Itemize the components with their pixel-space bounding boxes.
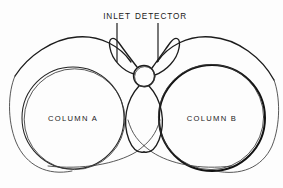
figure-root: INLET DETECTOR COLUMN A COLUMN B [0,0,283,188]
detector-label: DETECTOR [135,12,187,21]
column-a-label: COLUMN A [48,114,98,123]
detector-junction-circle-shadow [135,67,155,87]
tube-arc-left-upper [15,37,131,76]
ear-loop-left [110,38,137,74]
inlet-label: INLET [103,12,131,21]
column-b-label: COLUMN B [187,114,237,123]
schematic-diagram: INLET DETECTOR COLUMN A COLUMN B [0,0,283,188]
center-loop-left-side [126,86,144,152]
ear-loop-right [152,38,179,75]
